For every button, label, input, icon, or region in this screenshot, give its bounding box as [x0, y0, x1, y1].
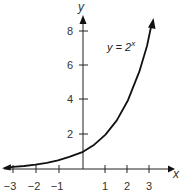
y-tick-label: 8 [67, 25, 73, 37]
x-tick-label: −1 [51, 180, 64, 192]
curve-right-arrow-icon [148, 18, 156, 29]
y-tick-label: 4 [67, 93, 73, 105]
x-axis-label: x [172, 167, 180, 181]
function-label-exponent: x [130, 39, 136, 48]
function-label: y = 2x [106, 39, 136, 53]
svg-text:y = 2x: y = 2x [106, 39, 136, 53]
x-tick-label: −2 [28, 180, 41, 192]
y-tick-label: 2 [67, 128, 73, 140]
exponential-graph: −3 −2 −1 1 2 3 x 8 6 4 2 y y = 2x [0, 0, 181, 195]
x-tick-label: −3 [4, 180, 17, 192]
function-label-base: y = 2 [106, 41, 131, 53]
x-axis: −3 −2 −1 1 2 3 x [4, 165, 180, 192]
x-tick-label: 2 [124, 180, 130, 192]
y-tick-label: 6 [67, 59, 73, 71]
y-axis: 8 6 4 2 y [67, 0, 88, 169]
y-axis-label: y [77, 0, 85, 14]
x-tick-label: 1 [102, 180, 108, 192]
x-tick-label: 3 [146, 180, 152, 192]
y-axis-arrow-icon [80, 15, 87, 24]
